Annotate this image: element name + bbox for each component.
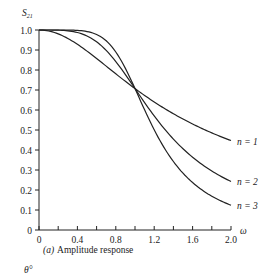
y-axis-label: S21 — [22, 8, 33, 19]
y-tick-label: 0.3 — [20, 166, 32, 176]
curve-labels: n = 1n = 2n = 3 — [237, 137, 258, 212]
next-panel-label: θ° — [24, 265, 33, 275]
y-tick-label: 0.7 — [20, 86, 32, 96]
curve-label-n2: n = 2 — [237, 177, 258, 187]
x-tick-label: 2.0 — [225, 235, 237, 245]
x-tick-label: 0 — [37, 235, 42, 245]
y-tick-label: 1.0 — [20, 26, 32, 36]
x-tick-label: 0.8 — [110, 235, 122, 245]
figure-caption: (a)Amplitude response — [43, 245, 133, 256]
y-tick-label: 0.9 — [20, 46, 32, 56]
y-axis-ticks: 00.10.20.30.40.50.60.70.80.91.0 — [20, 26, 39, 236]
curve-n1 — [39, 30, 231, 141]
curve-label-n3: n = 3 — [237, 201, 258, 211]
curves — [39, 30, 231, 205]
x-axis-label: ω — [240, 226, 247, 236]
x-axis-ticks: 00.40.81.21.62.0 — [37, 226, 238, 245]
curve-label-n1: n = 1 — [237, 137, 258, 147]
curve-n3 — [39, 30, 231, 205]
y-tick-label: 0 — [27, 226, 32, 236]
y-tick-label: 0.1 — [20, 206, 32, 216]
curve-n2 — [39, 30, 231, 181]
x-tick-label: 1.6 — [187, 235, 199, 245]
y-tick-label: 0.4 — [20, 146, 32, 156]
y-tick-label: 0.6 — [20, 106, 32, 116]
x-tick-label: 0.4 — [71, 235, 83, 245]
y-tick-label: 0.5 — [20, 126, 32, 136]
y-tick-label: 0.2 — [20, 186, 32, 196]
amplitude-response-chart: S21 00.10.20.30.40.50.60.70.80.91.0 00.4… — [0, 0, 272, 276]
x-tick-label: 1.2 — [148, 235, 160, 245]
y-tick-label: 0.8 — [20, 66, 32, 76]
axes — [39, 30, 231, 230]
